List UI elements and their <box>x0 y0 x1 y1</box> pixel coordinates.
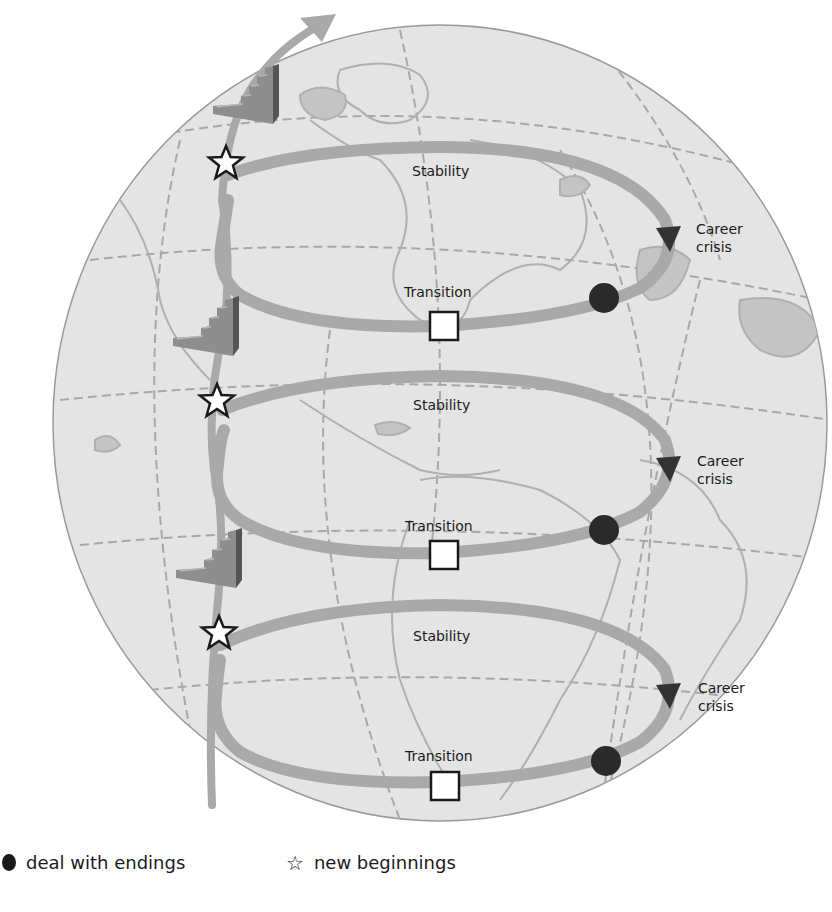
ending-dot-icon <box>589 515 619 545</box>
transition-label: Transition <box>404 748 473 764</box>
stability-label: Stability <box>413 628 470 644</box>
stability-label: Stability <box>413 397 470 413</box>
career-crisis-label-line2: crisis <box>698 698 734 714</box>
filled-circle-icon <box>2 854 16 871</box>
legend-endings: deal with endings <box>2 852 185 873</box>
transition-square-icon <box>431 772 459 800</box>
legend-endings-label: deal with endings <box>26 852 185 873</box>
career-spiral-diagram: Stability Transition Career crisis Stabi… <box>0 0 832 912</box>
ending-dot-icon <box>589 283 619 313</box>
career-crisis-label-line1: Career <box>698 680 745 696</box>
transition-square-icon <box>430 541 458 569</box>
transition-label: Transition <box>404 518 473 534</box>
transition-square-icon <box>430 312 458 340</box>
legend-beginnings: ☆ new beginnings <box>286 852 456 873</box>
legend-beginnings-label: new beginnings <box>314 852 456 873</box>
career-crisis-label-line1: Career <box>696 221 743 237</box>
star-outline-icon: ☆ <box>286 853 304 873</box>
career-crisis-label-line1: Career <box>697 453 744 469</box>
transition-label: Transition <box>403 284 472 300</box>
ending-dot-icon <box>591 746 621 776</box>
career-crisis-label-line2: crisis <box>697 471 733 487</box>
stability-label: Stability <box>412 163 469 179</box>
career-crisis-label-line2: crisis <box>696 239 732 255</box>
